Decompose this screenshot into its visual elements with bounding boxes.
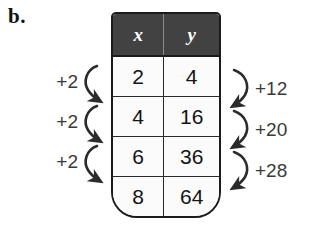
left-arrow-2 <box>86 146 100 181</box>
math-table-figure: b. x y 2 4 4 16 <box>0 0 319 227</box>
right-arrow-2 <box>233 152 247 188</box>
left-difference-arrows <box>86 66 100 181</box>
xy-table: x y 2 4 4 16 6 36 8 64 <box>113 14 219 216</box>
cell-x-2: 6 <box>113 137 164 177</box>
left-delta-label-0: +2 <box>30 72 78 91</box>
part-label: b. <box>8 6 26 27</box>
table-row: 2 4 <box>113 56 219 97</box>
cell-x-1: 4 <box>113 97 164 137</box>
xy-table-container: x y 2 4 4 16 6 36 8 64 <box>111 12 221 218</box>
right-delta-label-0: +12 <box>255 79 317 98</box>
header-cell-y: y <box>164 14 219 56</box>
cell-y-2: 36 <box>164 137 219 177</box>
cell-x-0: 2 <box>113 56 164 97</box>
table-body: 2 4 4 16 6 36 8 64 <box>113 56 219 216</box>
left-arrow-0 <box>86 66 100 101</box>
table-row: 8 64 <box>113 177 219 217</box>
left-arrow-1 <box>86 106 100 141</box>
table-row: 6 36 <box>113 137 219 177</box>
right-arrow-0 <box>233 70 247 106</box>
right-delta-label-2: +28 <box>255 161 317 180</box>
right-arrow-1 <box>233 111 247 147</box>
table-row: 4 16 <box>113 97 219 137</box>
table-header: x y <box>113 14 219 56</box>
header-cell-x: x <box>113 14 164 56</box>
cell-x-3: 8 <box>113 177 164 217</box>
right-difference-arrows <box>233 70 247 188</box>
right-delta-label-1: +20 <box>255 120 317 139</box>
cell-y-0: 4 <box>164 56 219 97</box>
cell-y-1: 16 <box>164 97 219 137</box>
cell-y-3: 64 <box>164 177 219 217</box>
table-header-row: x y <box>113 14 219 56</box>
left-delta-label-1: +2 <box>30 112 78 131</box>
left-delta-label-2: +2 <box>30 152 78 171</box>
